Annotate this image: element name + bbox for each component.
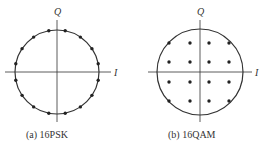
qam-q-label: Q [197,6,205,17]
psk-point [14,78,17,81]
psk-point [96,62,99,65]
psk-point [90,47,93,50]
qam-point [167,60,170,63]
psk-point [63,29,66,32]
qam-point [227,60,230,63]
qam-point [188,99,191,102]
psk-q-label: Q [54,6,62,17]
psk-point [20,47,23,50]
qam-point [207,60,210,63]
qam-point [207,80,210,83]
qam-point [167,80,170,83]
qam-point [188,60,191,63]
qam-point [227,99,230,102]
qam-point [207,99,210,102]
qam-point [207,41,210,44]
psk-point [79,105,82,108]
qam-point [188,80,191,83]
psk-point [32,35,35,38]
psk-point [32,105,35,108]
qam-point [227,80,230,83]
psk-point [79,35,82,38]
psk-point [90,94,93,97]
psk-point [47,111,50,114]
psk-constellation: Q I [5,6,118,122]
psk-point [20,94,23,97]
psk-point [63,111,66,114]
constellation-diagrams: Q I Q I [0,0,263,146]
psk-i-label: I [113,67,118,78]
qam-i-label: I [254,67,259,78]
psk-point [96,78,99,81]
qam-point [167,41,170,44]
qam-point [227,41,230,44]
psk-caption: (a) 16PSK [26,129,68,140]
psk-point [14,62,17,65]
qam-constellation: Q I [148,6,259,122]
qam-point [167,99,170,102]
qam-caption: (b) 16QAM [168,129,216,140]
qam-point [188,41,191,44]
psk-point [47,29,50,32]
